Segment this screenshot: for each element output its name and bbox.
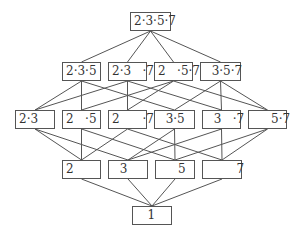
node-257: 2 ·5·7	[154, 62, 193, 81]
lattice-edge	[175, 81, 221, 110]
node-3: 3	[108, 160, 148, 179]
node-235: 2·3·5	[62, 62, 101, 81]
node-label: 2·3	[19, 111, 38, 128]
lattice-edge	[152, 179, 222, 206]
node-label: 3	[112, 161, 127, 178]
node-237: 2·3 ·7	[108, 62, 147, 81]
node-label: 2·3·5	[66, 63, 97, 80]
lattice-edge	[82, 179, 153, 206]
node-25: 2 ·5	[62, 110, 101, 129]
lattice-edge	[221, 81, 268, 110]
lattice-edge	[82, 31, 151, 62]
lattice-edge	[35, 129, 82, 160]
node-label: 5·7	[252, 111, 290, 128]
lattice-edge	[35, 81, 82, 110]
node-label: 2	[66, 161, 74, 178]
node-label: 5	[159, 161, 186, 178]
node-label: 2·3 ·7	[112, 63, 154, 80]
node-label: 7	[206, 161, 244, 178]
node-2357: 2·3·5·7	[130, 12, 171, 31]
node-label: 2 ·5·7	[158, 63, 200, 80]
lattice-edge	[128, 81, 222, 110]
node-label: 2 ·7	[112, 111, 154, 128]
lattice-edge	[128, 129, 175, 160]
lattice-edge	[128, 179, 152, 206]
node-357: 3·5·7	[200, 62, 241, 81]
node-35: 3·5	[154, 110, 195, 129]
node-57: 5·7	[248, 110, 287, 129]
node-5: 5	[155, 160, 195, 179]
node-37: 3 ·7	[202, 110, 241, 129]
node-label: 1	[136, 207, 155, 224]
node-27: 2 ·7	[108, 110, 147, 129]
node-label: 2 ·5	[66, 111, 97, 128]
node-label: 2·3·5·7	[134, 13, 176, 30]
node-1: 1	[132, 206, 172, 225]
node-label: 3 ·7	[206, 111, 244, 128]
node-2: 2	[62, 160, 101, 179]
lattice-edge	[151, 31, 221, 62]
node-7: 7	[202, 160, 242, 179]
lattice-edge	[221, 81, 222, 110]
lattice-edge	[128, 81, 174, 110]
node-23: 2·3	[15, 110, 55, 129]
lattice-edge	[222, 129, 268, 160]
lattice-edge	[82, 129, 176, 160]
node-label: 3·5	[158, 111, 185, 128]
divisor-lattice-diagram: 2·3·5·7 2·3·5 2·3 ·7 2 ·5·7 3·5·7 2·3 2 …	[0, 0, 302, 239]
lattice-edge	[82, 129, 128, 160]
node-label: 3·5·7	[204, 63, 242, 80]
